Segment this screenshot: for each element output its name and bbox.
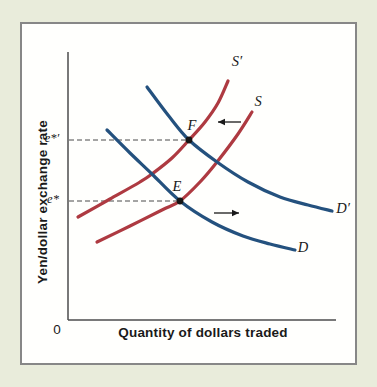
figure-stage: S′SD′DFe*′Ee* Yen/dollar exchange rate Q… xyxy=(0,0,377,387)
x-axis-label: Quantity of dollars traded xyxy=(118,325,287,340)
origin-label: 0 xyxy=(53,322,61,337)
y-axis-label: Yen/dollar exchange rate xyxy=(35,120,50,284)
figure-panel xyxy=(20,22,357,365)
